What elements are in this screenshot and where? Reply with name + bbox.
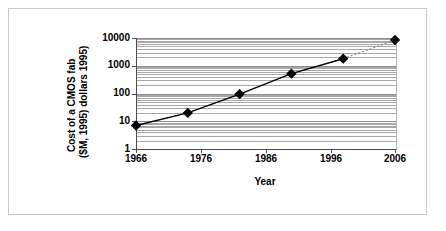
gridline xyxy=(137,100,396,101)
gridline xyxy=(137,53,396,54)
x-tick-label-1996: 1996 xyxy=(301,153,361,164)
gridline xyxy=(137,42,396,43)
gridline xyxy=(137,132,396,133)
x-tick-label-2006: 2006 xyxy=(365,153,425,164)
gridline xyxy=(137,38,396,39)
x-tick-label-1966: 1966 xyxy=(106,153,166,164)
chart-figure: Cost of a CMOS fab ($M, 1995) dollars 19… xyxy=(0,0,446,231)
gridline xyxy=(137,95,396,96)
gridline xyxy=(137,39,396,40)
gridline xyxy=(137,70,396,71)
gridline xyxy=(137,94,396,95)
gridline xyxy=(137,85,396,86)
gridline xyxy=(137,67,396,68)
gridline xyxy=(137,74,396,75)
gridline xyxy=(137,49,396,50)
gridline xyxy=(137,108,396,109)
gridline xyxy=(137,130,396,131)
y-tick-label-1000: 1000 xyxy=(88,59,130,70)
gridline xyxy=(137,127,396,128)
gridline xyxy=(137,96,396,97)
gridline xyxy=(137,57,396,58)
gridline xyxy=(137,77,396,78)
y-tick-label-10: 10 xyxy=(88,115,130,126)
x-tick-label-1986: 1986 xyxy=(236,153,296,164)
gridline xyxy=(137,126,396,127)
gridline xyxy=(137,72,396,73)
gridline xyxy=(137,113,396,114)
plot-area xyxy=(136,38,397,150)
gridline xyxy=(137,68,396,69)
y-tick-label-10000: 10000 xyxy=(88,32,130,43)
gridline xyxy=(137,46,396,47)
x-tick-label-1976: 1976 xyxy=(171,153,231,164)
gridline xyxy=(137,66,396,67)
gridline xyxy=(137,123,396,124)
gridline xyxy=(137,102,396,103)
gridline xyxy=(137,80,396,81)
gridline xyxy=(137,121,396,122)
x-axis-title: Year xyxy=(135,176,395,187)
gridline xyxy=(137,141,396,142)
gridline xyxy=(137,105,396,106)
gridline xyxy=(137,98,396,99)
gridline xyxy=(137,136,396,137)
gridline xyxy=(137,41,396,42)
gridline xyxy=(137,44,396,45)
y-axis-title-line1: Cost of a CMOS fab xyxy=(66,59,77,152)
gridline xyxy=(137,124,396,125)
y-tick-label-100: 100 xyxy=(88,87,130,98)
gridlines xyxy=(137,38,396,149)
